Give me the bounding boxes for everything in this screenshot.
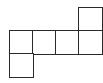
- net-square-3: [32, 30, 57, 55]
- net-square-5: [78, 30, 103, 55]
- net-square-2: [9, 30, 34, 55]
- cube-net-diagram: [0, 0, 103, 83]
- net-square-4: [55, 30, 80, 55]
- net-square-1: [78, 7, 103, 32]
- net-square-6: [9, 53, 34, 78]
